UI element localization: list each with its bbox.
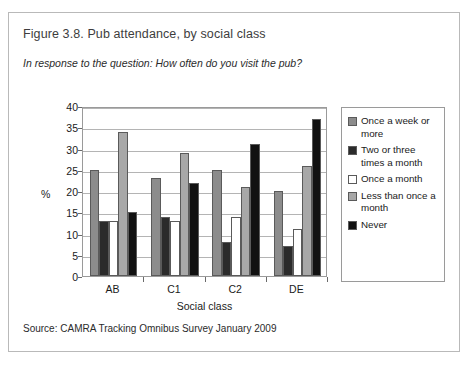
- legend-item-label: Once a month: [361, 173, 423, 186]
- bar: [99, 221, 109, 276]
- bar: [222, 242, 232, 276]
- legend-swatch-icon: [348, 117, 357, 126]
- legend-item[interactable]: Two or three times a month: [348, 144, 439, 169]
- y-axis-tick-label: 25: [56, 165, 78, 177]
- legend-item[interactable]: Less than once a month: [348, 190, 439, 215]
- bar: [293, 229, 303, 276]
- bar: [170, 221, 180, 276]
- x-axis-tick-label: C2: [228, 283, 241, 295]
- bar: [189, 183, 199, 277]
- y-axis-title: %: [41, 188, 50, 200]
- x-axis-tick-mark: [327, 277, 328, 282]
- legend-item-label: Two or three times a month: [361, 144, 439, 169]
- legend-item[interactable]: Once a week or more: [348, 115, 439, 140]
- plot-area: [82, 107, 327, 277]
- chart-region: % 0510152025303540 ABC1C2DE Social class…: [23, 85, 447, 315]
- y-axis-tick-label: 15: [56, 207, 78, 219]
- bar: [109, 221, 119, 276]
- bar: [231, 217, 241, 277]
- legend-swatch-icon: [348, 146, 357, 155]
- figure-title: Figure 3.8. Pub attendance, by social cl…: [23, 27, 266, 41]
- y-axis-tick-label: 40: [56, 101, 78, 113]
- figure-subtitle: In response to the question: How often d…: [23, 57, 302, 69]
- legend-swatch-icon: [348, 221, 357, 230]
- figure-frame: Figure 3.8. Pub attendance, by social cl…: [8, 12, 460, 352]
- y-axis-tick-label: 5: [56, 250, 78, 262]
- x-axis-tick-mark: [266, 277, 267, 282]
- bar: [118, 132, 128, 277]
- bar: [161, 217, 171, 277]
- bar-group: [144, 108, 205, 276]
- legend-item[interactable]: Once a month: [348, 173, 439, 186]
- x-axis-tick-mark: [205, 277, 206, 282]
- legend-item-label: Once a week or more: [361, 115, 439, 140]
- legend-item-label: Less than once a month: [361, 190, 439, 215]
- bar: [90, 170, 100, 276]
- bar-layer: [83, 108, 326, 276]
- bar-group: [83, 108, 144, 276]
- x-axis-tick-mark: [143, 277, 144, 282]
- y-axis-tick-label: 35: [56, 122, 78, 134]
- bar-group: [267, 108, 328, 276]
- figure-source: Source: CAMRA Tracking Omnibus Survey Ja…: [23, 323, 276, 334]
- x-axis-tick-label: C1: [167, 283, 180, 295]
- y-axis-tick-label: 30: [56, 144, 78, 156]
- bar: [180, 153, 190, 276]
- bar: [302, 166, 312, 277]
- bar: [283, 246, 293, 276]
- chart-legend: Once a week or moreTwo or three times a …: [341, 107, 445, 282]
- y-axis-tick-labels: 0510152025303540: [52, 107, 78, 277]
- legend-item-label: Never: [361, 219, 387, 232]
- y-axis-tick-label: 0: [56, 271, 78, 283]
- bar: [212, 170, 222, 276]
- x-axis-tick-labels: ABC1C2DE: [82, 283, 327, 299]
- bar: [128, 212, 138, 276]
- bar: [151, 178, 161, 276]
- x-axis-title: Social class: [82, 300, 327, 312]
- bar: [274, 191, 284, 276]
- bar: [312, 119, 322, 276]
- bar: [250, 144, 260, 276]
- legend-swatch-icon: [348, 192, 357, 201]
- bar-group: [206, 108, 267, 276]
- legend-swatch-icon: [348, 175, 357, 184]
- x-axis-tick-label: DE: [289, 283, 304, 295]
- x-axis-tick-label: AB: [106, 283, 120, 295]
- legend-item[interactable]: Never: [348, 219, 439, 232]
- bar: [241, 187, 251, 276]
- y-axis-tick-label: 20: [56, 186, 78, 198]
- y-axis-tick-label: 10: [56, 229, 78, 241]
- x-axis-tick-marks: [82, 277, 327, 282]
